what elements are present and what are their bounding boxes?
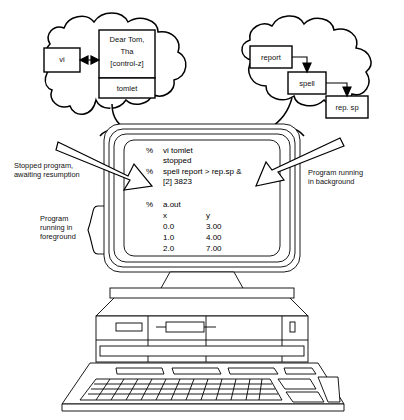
- main-key-block: [80, 379, 282, 400]
- case-top: [96, 296, 308, 316]
- terminal-output-stopped: stopped: [163, 156, 191, 166]
- function-key-group-4: [284, 368, 316, 374]
- terminal-command-2: spell report > rep.sp &: [163, 167, 241, 177]
- terminal-prompt-1: %: [146, 146, 153, 156]
- table-row-2-x: 1.0: [163, 233, 174, 243]
- terminal-prompt-2: %: [146, 167, 153, 177]
- document-body-line-3: [control-z]: [99, 58, 155, 70]
- floppy-slot: [116, 323, 142, 331]
- table-header-x: x: [163, 211, 167, 221]
- document-filename-label: tomlet: [99, 84, 155, 93]
- terminal-prompt-3: %: [146, 200, 153, 210]
- keypad-block-lower: [286, 392, 324, 402]
- annotation-foreground-program: Program running in foreground: [40, 214, 96, 242]
- keypad-block-upper: [278, 379, 316, 389]
- function-key-group-1: [116, 368, 164, 374]
- document-body-line-1: Dear Tom,: [99, 34, 155, 46]
- keyboard: [62, 363, 344, 411]
- table-row-2-y: 4.00: [206, 233, 222, 243]
- terminal-command-3: a.out: [163, 200, 181, 210]
- power-indicator: [290, 322, 295, 332]
- case-base-strip: [100, 346, 304, 356]
- system-unit: [96, 288, 308, 362]
- table-row-1-y: 3.00: [206, 222, 222, 232]
- annotation-background-program: Program running in background: [308, 168, 400, 186]
- table-row-3-x: 2.0: [163, 244, 174, 254]
- terminal-command-1: vi tomlet: [163, 146, 193, 156]
- function-key-group-2: [172, 368, 221, 374]
- crt-monitor: [104, 124, 300, 290]
- terminal-job-id: [2] 3823: [163, 177, 192, 187]
- report-box-label: report: [250, 53, 292, 62]
- annotation-stopped-program: Stopped program, awaiting resumption: [14, 161, 106, 179]
- table-row-3-y: 7.00: [206, 244, 222, 254]
- rep-sp-box-label: rep. sp: [326, 103, 368, 112]
- table-row-1-x: 0.0: [163, 222, 174, 232]
- figure-canvas: .ln{fill:none;stroke:#000;stroke-width:1…: [0, 0, 404, 420]
- crt-screen: [124, 140, 280, 256]
- vi-box-label: vi: [44, 55, 80, 64]
- case-top-ridge: [110, 288, 294, 298]
- keyboard-front-edge: [62, 404, 344, 411]
- spell-box-label: spell: [288, 79, 326, 88]
- function-key-group-3: [228, 368, 278, 374]
- table-header-y: y: [206, 211, 210, 221]
- document-body-line-2: Tha: [99, 46, 155, 58]
- tape-slot: [166, 322, 204, 332]
- monitor-neck: [160, 272, 244, 290]
